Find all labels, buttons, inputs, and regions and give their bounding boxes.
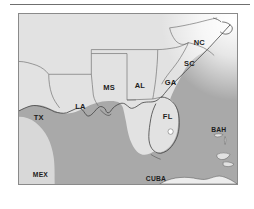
- label-texas: TX: [34, 113, 44, 122]
- label-mexico: MEX: [33, 171, 48, 178]
- label-south-carolina: SC: [184, 59, 195, 68]
- label-cuba: CUBA: [146, 175, 166, 182]
- atlantic-highlight: [136, 14, 237, 125]
- label-bahamas: BAH: [211, 126, 226, 133]
- map-graphic: NC SC MS AL GA LA TX FL MEX CUBA BAH: [19, 14, 237, 184]
- label-florida: FL: [163, 112, 173, 121]
- horizontal-rule: [10, 4, 250, 5]
- figure-page: NC SC MS AL GA LA TX FL MEX CUBA BAH: [0, 0, 254, 209]
- map-figure: NC SC MS AL GA LA TX FL MEX CUBA BAH: [18, 13, 238, 185]
- island-bahamas-2: [224, 137, 225, 145]
- label-alabama: AL: [135, 81, 146, 90]
- label-mississippi: MS: [103, 83, 115, 92]
- label-louisiana: LA: [75, 102, 86, 111]
- label-north-carolina: NC: [194, 38, 206, 47]
- label-georgia: GA: [165, 78, 177, 87]
- lake-okeechobee: [168, 129, 173, 135]
